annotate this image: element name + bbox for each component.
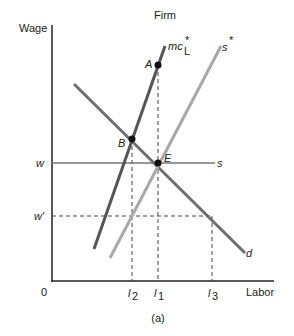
x-tick-l2: l2 [128,287,138,302]
point-e [155,160,162,167]
label-s: s [217,157,223,169]
point-a-label: A [144,58,152,70]
point-a [155,62,162,69]
point-b [129,136,136,143]
svg-text:2: 2 [132,290,138,302]
x-tick-l3: l3 [208,287,218,302]
label-mc-star: mc L * [168,34,190,57]
label-s-star: s * [222,34,234,53]
x-axis-label: Labor [246,286,274,298]
dashed-guides [52,65,212,281]
x-tick-l1: l1 [154,287,164,302]
svg-text:l: l [208,287,211,299]
svg-text:*: * [185,34,190,46]
svg-text:*: * [229,34,234,46]
y-axis-label: Wage [19,22,47,34]
y-tick-w: w [36,157,45,169]
y-tick-w-prime: w' [34,210,45,222]
chart-title: Firm [154,9,176,21]
point-b-label: B [118,137,125,149]
svg-text:l: l [128,287,131,299]
caption: (a) [151,312,164,324]
svg-text:3: 3 [212,290,218,302]
origin-label: 0 [41,286,47,298]
svg-text:mc: mc [168,40,183,52]
svg-text:L: L [184,45,190,57]
svg-text:s: s [222,41,228,53]
svg-text:l: l [154,287,157,299]
point-e-label: E [164,152,172,164]
chart: Firm Wage Labor 0 A B E mc L * s * d s w… [0,0,294,336]
label-d: d [246,247,253,259]
svg-text:1: 1 [158,290,164,302]
